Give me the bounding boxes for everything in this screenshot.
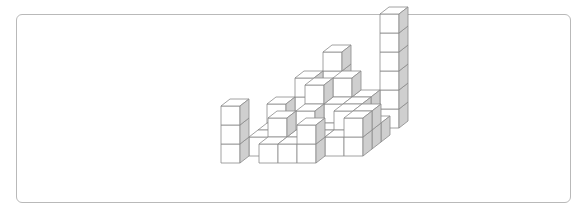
cube-face (297, 125, 316, 144)
cube-face (221, 125, 240, 144)
cube-face (333, 78, 352, 97)
cube-face (278, 144, 297, 163)
cube-face (305, 85, 324, 104)
cube-face (325, 137, 344, 156)
cube-stack-diagram (0, 0, 583, 218)
cube-face (380, 14, 399, 33)
cube-face (221, 106, 240, 125)
cube-face (344, 137, 363, 156)
cube-face (297, 144, 316, 163)
cube-face (380, 90, 399, 109)
cube-face (380, 52, 399, 71)
cube-face (323, 52, 342, 71)
cube-face (344, 118, 363, 137)
cube-face (268, 118, 287, 137)
cube-face (380, 71, 399, 90)
cube-face (380, 33, 399, 52)
cube-face (221, 144, 240, 163)
cube-face (259, 144, 278, 163)
